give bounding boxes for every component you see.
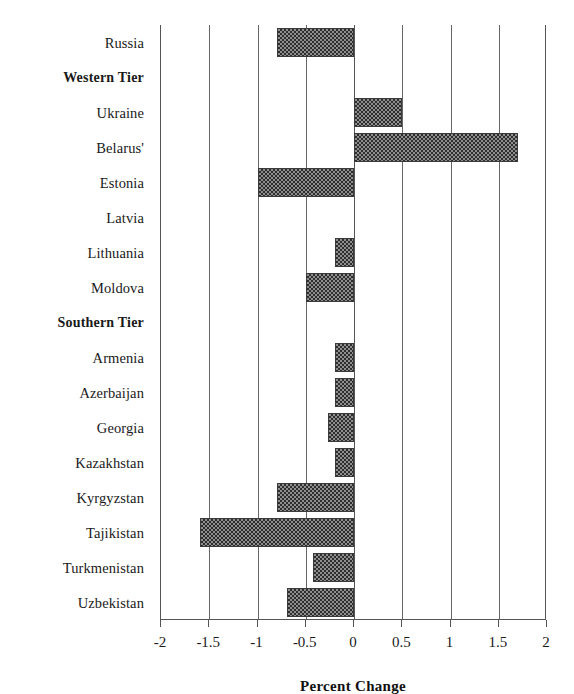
x-tick-label: -0.5 bbox=[293, 634, 317, 651]
gridline bbox=[402, 25, 403, 619]
bar-moldova bbox=[306, 273, 354, 302]
x-tick bbox=[546, 620, 547, 627]
x-tick-label: 1.5 bbox=[488, 634, 507, 651]
x-tick bbox=[450, 620, 451, 627]
category-label-estonia: Estonia bbox=[0, 176, 144, 190]
x-tick bbox=[257, 620, 258, 627]
category-label-lithuania: Lithuania bbox=[0, 246, 144, 260]
category-axis-labels: RussiaWestern TierUkraineBelarus'Estonia… bbox=[0, 0, 152, 694]
bar-armenia bbox=[335, 343, 354, 372]
x-tick-label: -2 bbox=[154, 634, 167, 651]
x-tick bbox=[401, 620, 402, 627]
category-label-azerbaijan: Azerbaijan bbox=[0, 386, 144, 400]
bar-estonia bbox=[258, 168, 355, 197]
x-tick-label: -1.5 bbox=[196, 634, 220, 651]
category-label-latvia: Latvia bbox=[0, 211, 144, 225]
x-tick-label: 2 bbox=[542, 634, 550, 651]
bar-ukraine bbox=[354, 98, 402, 127]
category-label-tajikistan: Tajikistan bbox=[0, 526, 144, 540]
plot-area bbox=[160, 25, 546, 620]
category-label-georgia: Georgia bbox=[0, 421, 144, 435]
category-label-armenia: Armenia bbox=[0, 351, 144, 365]
x-axis-title: Percent Change bbox=[160, 678, 546, 694]
category-label-kazakhstan: Kazakhstan bbox=[0, 456, 144, 470]
percent-change-bar-chart: RussiaWestern TierUkraineBelarus'Estonia… bbox=[0, 0, 574, 694]
bar-uzbekistan bbox=[287, 588, 354, 617]
x-tick bbox=[160, 620, 161, 627]
x-tick bbox=[353, 620, 354, 627]
bar-russia bbox=[277, 28, 354, 57]
x-tick bbox=[305, 620, 306, 627]
bar-turkmenistan bbox=[313, 553, 354, 582]
category-label-kyrgyzstan: Kyrgyzstan bbox=[0, 491, 144, 505]
category-label-moldova: Moldova bbox=[0, 281, 144, 295]
bar-lithuania bbox=[335, 238, 354, 267]
category-label-belarus-: Belarus' bbox=[0, 141, 144, 155]
category-label-uzbekistan: Uzbekistan bbox=[0, 596, 144, 610]
group-label-western-tier: Western Tier bbox=[0, 71, 144, 85]
x-tick bbox=[498, 620, 499, 627]
x-tick-label: 1 bbox=[446, 634, 454, 651]
gridline bbox=[451, 25, 452, 619]
bar-georgia bbox=[328, 413, 354, 442]
category-label-turkmenistan: Turkmenistan bbox=[0, 561, 144, 575]
x-tick-label: 0.5 bbox=[392, 634, 411, 651]
bar-kyrgyzstan bbox=[277, 483, 354, 512]
group-label-southern-tier: Southern Tier bbox=[0, 316, 144, 330]
bar-azerbaijan bbox=[335, 378, 354, 407]
bar-tajikistan bbox=[200, 518, 354, 547]
category-label-russia: Russia bbox=[0, 36, 144, 50]
bar-kazakhstan bbox=[335, 448, 354, 477]
x-tick-label: -1 bbox=[250, 634, 263, 651]
category-label-ukraine: Ukraine bbox=[0, 106, 144, 120]
gridline bbox=[499, 25, 500, 619]
bar-belarus- bbox=[354, 133, 518, 162]
x-tick bbox=[208, 620, 209, 627]
x-tick-label: 0 bbox=[349, 634, 357, 651]
